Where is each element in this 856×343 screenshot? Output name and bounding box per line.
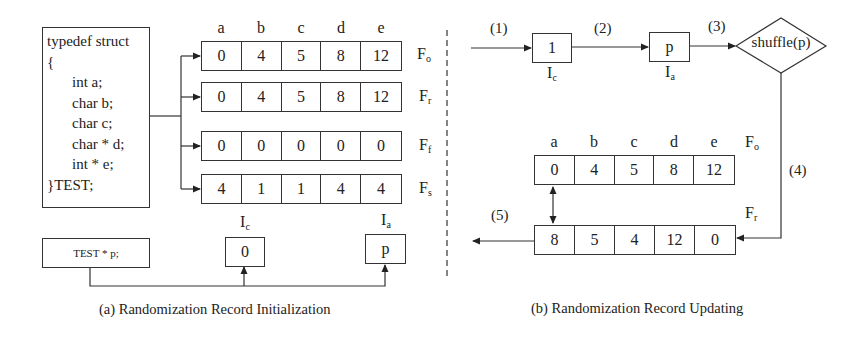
record-cell: 8 (654, 156, 694, 184)
record-label-fs: Fs (419, 179, 432, 198)
ia-label: Ia (371, 211, 401, 230)
ia-label-b: Ia (655, 63, 685, 82)
record-cell: 0 (202, 42, 242, 70)
record-cell: 8 (321, 42, 361, 70)
column-label-d: d (321, 19, 361, 37)
record-cell: 0 (202, 83, 242, 111)
record-fs: 4 1 1 4 4 (201, 174, 402, 204)
step-label-3: (3) (708, 18, 726, 35)
ia-box-b: p (649, 32, 690, 62)
ic-box: 0 (225, 237, 265, 267)
step-label-4: (4) (789, 162, 807, 179)
code-line: int * e; (47, 154, 149, 175)
code-line: int a; (47, 72, 149, 93)
record-cell: 4 (615, 226, 655, 254)
record-cell: 0 (321, 132, 361, 160)
code-line: }TEST; (47, 175, 149, 196)
record-cell: 0 (282, 132, 322, 160)
record-cell: 12 (361, 42, 401, 70)
record-cell: 12 (655, 226, 695, 254)
column-label-c: c (281, 19, 321, 37)
shuffle-decision: shuffle(p) (736, 34, 826, 51)
record-cell: 0 (361, 132, 401, 160)
record-cell: 5 (282, 83, 322, 111)
record-cell: 8 (535, 226, 575, 254)
ia-box: p (365, 234, 406, 264)
record-cell: 8 (321, 83, 361, 111)
record-ff: 0 0 0 0 0 (201, 131, 402, 161)
record-cell: 4 (575, 156, 615, 184)
record-cell: 1 (242, 175, 282, 203)
record-label-fo: Fo (417, 45, 431, 64)
record-cell: 0 (242, 132, 282, 160)
record-cell: 5 (575, 226, 615, 254)
column-label-a: a (201, 19, 241, 37)
code-line: typedef struct (47, 31, 149, 52)
record-fo: 0 4 5 8 12 (201, 41, 402, 71)
record-fr-b: 8 5 4 12 0 (534, 225, 736, 255)
record-label-fr-b: Fr (745, 204, 757, 223)
caption-a: (a) Randomization Record Initialization (99, 301, 331, 318)
record-cell: 4 (361, 175, 401, 203)
column-label-e: e (694, 133, 734, 151)
record-fo-b: 0 4 5 8 12 (534, 155, 735, 185)
struct-definition-box: typedef struct { int a; char b; char c; … (42, 27, 150, 208)
record-label-fo-b: Fo (745, 133, 759, 152)
record-cell: 4 (321, 175, 361, 203)
record-cell: 0 (202, 132, 242, 160)
ic-label-b: Ic (537, 64, 567, 83)
record-cell: 4 (242, 83, 282, 111)
code-line: { (47, 52, 149, 73)
step-label-1: (1) (490, 20, 508, 37)
column-label-c: c (614, 133, 654, 151)
step-label-2: (2) (594, 20, 612, 37)
record-label-ff: Ff (419, 136, 431, 155)
column-label-d: d (654, 133, 694, 151)
record-cell: 4 (202, 175, 242, 203)
step-label-5: (5) (491, 207, 509, 224)
record-cell: 12 (694, 156, 734, 184)
record-cell: 0 (535, 156, 575, 184)
code-line: char b; (47, 93, 149, 114)
record-cell: 12 (361, 83, 401, 111)
record-cell: 5 (282, 42, 322, 70)
record-label-fr: Fr (419, 87, 431, 106)
column-label-a: a (534, 133, 574, 151)
caption-b: (b) Randomization Record Updating (531, 300, 743, 317)
ic-label: Ic (230, 213, 260, 232)
ic-box-b: 1 (532, 33, 572, 63)
code-line: char c; (47, 113, 149, 134)
record-cell: 0 (695, 226, 735, 254)
record-cell: 1 (282, 175, 322, 203)
record-cell: 5 (615, 156, 655, 184)
record-fr: 0 4 5 8 12 (201, 82, 402, 112)
pointer-declaration-box: TEST * p; (42, 238, 150, 268)
column-label-b: b (574, 133, 614, 151)
record-cell: 4 (242, 42, 282, 70)
code-line: char * d; (47, 134, 149, 155)
column-label-e: e (361, 19, 401, 37)
column-label-b: b (241, 19, 281, 37)
